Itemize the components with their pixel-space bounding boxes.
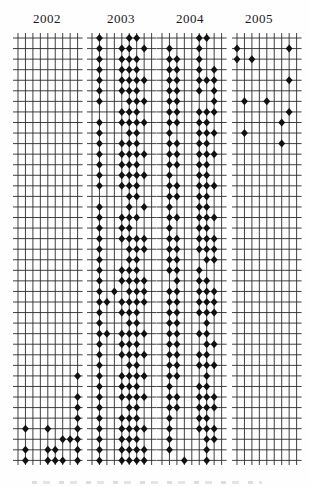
panel-year-label-2004: 2004 [160,11,220,27]
detection-grid-2002 [13,33,83,465]
panel-year-label-2005: 2005 [229,11,289,27]
small-multiples-figure: 2002 2003 2004 2005 [0,0,310,487]
detection-grid-2005 [232,33,302,465]
detection-grid-2003 [87,33,157,465]
panel-year-label-2003: 2003 [91,11,151,27]
caption-fragment [32,481,262,484]
detection-grid-2004 [157,33,227,465]
panel-year-label-2002: 2002 [17,11,77,27]
